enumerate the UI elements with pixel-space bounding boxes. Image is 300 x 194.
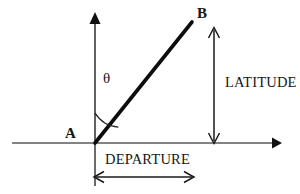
horizontal-axis-arrowhead-icon xyxy=(272,138,282,149)
vertical-axis xyxy=(90,12,101,143)
latitude-dimension-label: LATITUDE xyxy=(225,75,297,90)
horizontal-axis xyxy=(12,138,282,149)
point-label-b: B xyxy=(197,6,207,21)
vertical-axis-arrowhead-icon xyxy=(90,12,101,24)
point-label-a: A xyxy=(65,126,76,141)
angle-label-theta: θ xyxy=(103,71,110,86)
latitude-dimension-arrow xyxy=(209,28,220,144)
departure-dimension-arrow xyxy=(94,172,194,183)
survey-latitude-departure-diagram: A B θ LATITUDE DEPARTURE xyxy=(0,0,300,194)
departure-dimension-label: DEPARTURE xyxy=(105,152,190,167)
